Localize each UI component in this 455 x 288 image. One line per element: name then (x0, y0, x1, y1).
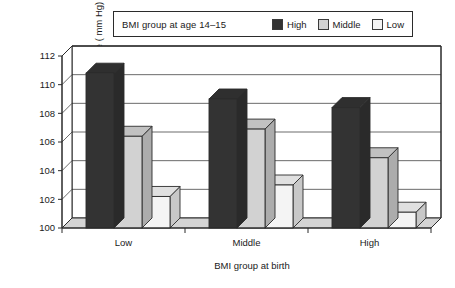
bar-high-high (332, 98, 370, 228)
bar-middle-high (209, 89, 247, 228)
y-tick-label: 104 (39, 165, 55, 176)
chart-figure: BMI group at age 14–15 High Middle Low S… (0, 0, 455, 288)
x-tick-label: Low (115, 237, 133, 248)
x-tick-label: Middle (233, 237, 261, 248)
x-tick-label: High (360, 237, 380, 248)
y-tick-label: 102 (39, 194, 55, 205)
y-tick-label: 112 (40, 50, 55, 61)
plot-area: 100102104106108110112LowMiddleHigh (0, 0, 455, 288)
y-tick-label: 100 (39, 222, 55, 233)
y-tick-label: 108 (39, 108, 55, 119)
y-tick-label: 110 (40, 79, 55, 90)
y-tick-label: 106 (39, 136, 55, 147)
bar-low-high (86, 63, 124, 228)
